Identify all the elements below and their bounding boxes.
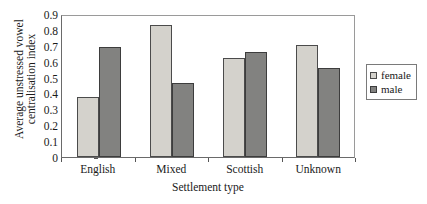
y-axis-tick-label: 0.9 bbox=[44, 9, 58, 21]
legend: femalemale bbox=[366, 64, 417, 100]
x-axis-tick-label-english: English bbox=[61, 163, 135, 175]
x-axis-tick-mark bbox=[355, 158, 356, 162]
bar-chart: Average unstressed vowel centralisation … bbox=[0, 0, 427, 204]
legend-swatch-male bbox=[370, 86, 377, 93]
x-axis-tick-labels: EnglishMixedScottishUnknown bbox=[61, 163, 355, 175]
x-axis-tick-label-unknown: Unknown bbox=[282, 163, 356, 175]
bar-group bbox=[77, 16, 121, 157]
legend-label-female: female bbox=[381, 69, 411, 81]
bar-mixed-female bbox=[150, 25, 172, 157]
x-axis-tick-mark bbox=[135, 158, 136, 162]
y-axis-tick-label: 0.8 bbox=[44, 25, 58, 37]
bar-groups bbox=[62, 16, 354, 157]
bar-english-male bbox=[99, 47, 121, 157]
bar-group bbox=[150, 16, 194, 157]
bar-unknown-female bbox=[296, 45, 318, 157]
legend-swatch-female bbox=[370, 72, 377, 79]
y-axis-tick-label: 0.1 bbox=[44, 136, 58, 148]
x-axis-tick-mark bbox=[208, 158, 209, 162]
bar-english-female bbox=[77, 97, 99, 157]
bar-mixed-male bbox=[172, 83, 194, 157]
bar-group bbox=[223, 16, 267, 157]
x-axis-tick-label-scottish: Scottish bbox=[208, 163, 282, 175]
x-axis-tick-mark bbox=[282, 158, 283, 162]
x-axis-title: Settlement type bbox=[61, 181, 355, 193]
y-axis-tick-label: 0.6 bbox=[44, 57, 58, 69]
y-axis-title-line-1: Average unstressed vowel bbox=[13, 19, 25, 139]
x-axis-tick-mark bbox=[61, 158, 62, 162]
y-axis-tick-label: 0.5 bbox=[44, 73, 58, 85]
bar-scottish-male bbox=[245, 52, 267, 157]
y-axis-tick-label: 0.3 bbox=[44, 104, 58, 116]
y-axis-tick-label: 0.2 bbox=[44, 120, 58, 132]
y-axis-tick-labels: 0.90.80.70.60.50.40.30.20.10 bbox=[34, 9, 58, 159]
bar-unknown-male bbox=[318, 68, 340, 157]
bar-scottish-female bbox=[223, 58, 245, 157]
y-axis-tick-label: 0.4 bbox=[44, 88, 58, 100]
y-axis-tick-label: 0 bbox=[52, 152, 58, 164]
legend-item-female[interactable]: female bbox=[370, 68, 411, 82]
bar-group bbox=[296, 16, 340, 157]
legend-label-male: male bbox=[381, 83, 402, 95]
plot-area bbox=[61, 15, 355, 158]
legend-item-male[interactable]: male bbox=[370, 82, 411, 96]
x-axis-tick-label-mixed: Mixed bbox=[135, 163, 209, 175]
y-axis-tick-label: 0.7 bbox=[44, 41, 58, 53]
